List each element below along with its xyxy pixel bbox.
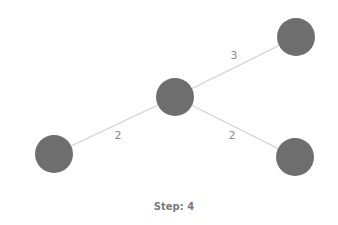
node-bottom-left[interactable]: [35, 135, 73, 173]
edge-center-bottom-right: [175, 97, 295, 157]
edge-center-bottom-left: [54, 97, 175, 154]
step-counter: Step: 4: [154, 201, 194, 212]
edge-center-top-right: [175, 37, 296, 97]
edge-weight-label: 2: [229, 129, 236, 142]
node-center[interactable]: [156, 78, 194, 116]
node-bottom-right[interactable]: [276, 138, 314, 176]
graph-canvas: [0, 0, 338, 225]
edge-weight-label: 2: [115, 129, 122, 142]
node-top-right[interactable]: [277, 18, 315, 56]
edge-weight-label: 3: [231, 49, 238, 62]
